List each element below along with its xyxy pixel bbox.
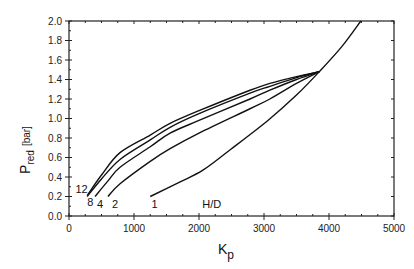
- y-axis-title-main: P: [17, 165, 33, 174]
- curve-hd-1: [150, 21, 361, 197]
- x-tick-label: 2000: [188, 223, 211, 234]
- x-axis-title-sub: p: [227, 248, 234, 262]
- line-chart: 0.00.20.40.60.81.01.21.41.61.82.0 010002…: [0, 0, 414, 269]
- x-tick-label: 3000: [253, 223, 276, 234]
- x-tick-label: 5000: [383, 223, 406, 234]
- y-tick-label: 1.4: [48, 74, 62, 85]
- y-tick-label: 0.6: [48, 152, 62, 163]
- svg-text:Kp: Kp: [218, 241, 234, 262]
- y-axis-title-unit: [bar]: [21, 126, 32, 146]
- y-tick-label: 1.2: [48, 94, 62, 105]
- x-tick-label: 4000: [318, 223, 341, 234]
- svg-text:Pred[bar]: Pred[bar]: [17, 126, 36, 174]
- curve-label: 8: [87, 196, 93, 208]
- curve-hd-2: [108, 72, 319, 197]
- curve-label: 4: [97, 198, 103, 210]
- y-axis-title-sub: red: [25, 150, 36, 164]
- curves: [87, 21, 361, 197]
- x-tick-label: 0: [66, 223, 72, 234]
- y-tick-label: 0.4: [48, 172, 62, 183]
- curve-label: 12: [76, 183, 88, 195]
- y-tick-label: 0.2: [48, 191, 62, 202]
- y-tick-label: 1.8: [48, 35, 62, 46]
- y-axis-title: Pred[bar]: [17, 126, 36, 174]
- y-tick-label: 1.6: [48, 55, 62, 66]
- y-tick-label: 1.0: [48, 113, 62, 124]
- x-axis-title: Kp: [218, 241, 234, 262]
- y-tick-label: 0.0: [48, 211, 62, 222]
- curve-label: H/D: [202, 198, 221, 210]
- curve-labels: 128421H/D: [76, 183, 222, 211]
- curve-label: 2: [112, 198, 118, 210]
- y-tick-label: 2.0: [48, 16, 62, 27]
- curve-label: 1: [152, 198, 158, 210]
- x-tick-label: 1000: [123, 223, 146, 234]
- y-tick-label: 0.8: [48, 133, 62, 144]
